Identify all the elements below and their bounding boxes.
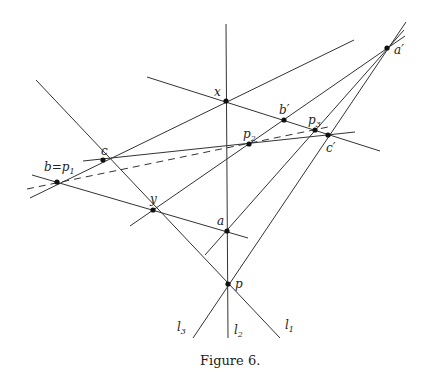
point-b-p1 — [54, 179, 59, 184]
label-y: y — [149, 192, 157, 206]
label-c-prime: c′ — [326, 141, 336, 155]
label-c: c — [101, 144, 108, 158]
line-c-cprime — [83, 132, 355, 161]
point-c — [100, 157, 105, 162]
figure-caption: Figure 6. — [200, 353, 260, 368]
label-p2: p2 — [243, 127, 256, 143]
label-p: p — [235, 277, 243, 291]
line-l1 — [36, 80, 280, 338]
line-l3 — [193, 22, 406, 338]
label-b-prime: b′ — [279, 103, 290, 117]
point-b-prime — [281, 117, 286, 122]
line-y-aprime — [130, 36, 405, 226]
label-p3: p3 — [308, 113, 321, 129]
label-l1: l1 — [285, 318, 294, 334]
label-a: a — [217, 214, 224, 228]
line-b-c-x — [30, 40, 354, 198]
label-l2: l2 — [234, 323, 243, 339]
point-p — [225, 281, 230, 286]
point-a — [224, 228, 229, 233]
point-c-prime — [325, 132, 330, 137]
dashed-line-p1-p3 — [27, 127, 328, 189]
label-a-prime: a′ — [394, 43, 404, 57]
label-l3: l3 — [177, 320, 186, 336]
point-x — [223, 98, 228, 103]
line-b-y-a — [32, 175, 248, 238]
line-l2 — [226, 24, 228, 338]
label-x: x — [214, 85, 221, 99]
label-b-p1: b=p1 — [44, 160, 75, 176]
point-y — [150, 207, 155, 212]
point-a-prime — [384, 45, 389, 50]
figure-6-diagram: x b′ p3 c′ a′ c p2 b=p1 y a p l3 l2 l1 F… — [0, 0, 427, 372]
